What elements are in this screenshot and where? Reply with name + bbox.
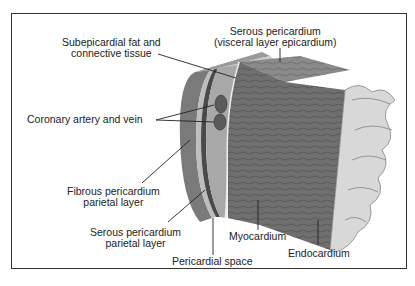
label-serous-visceral: Serous pericardium (visceral layer epica…: [214, 26, 337, 48]
label-serous-parietal: Serous pericardium parietal layer: [90, 227, 181, 249]
label-fibrous: Fibrous pericardium parietal layer: [67, 186, 160, 208]
label-endocardium: Endocardium: [288, 248, 350, 259]
label-myocardium: Myocardium: [229, 231, 286, 242]
myocardium-block: [228, 56, 350, 250]
label-subepicardial: Subepicardial fat and connective tissue: [62, 37, 161, 59]
label-coronary: Coronary artery and vein: [27, 114, 143, 125]
label-pericardial-space: Pericardial space: [172, 256, 253, 267]
